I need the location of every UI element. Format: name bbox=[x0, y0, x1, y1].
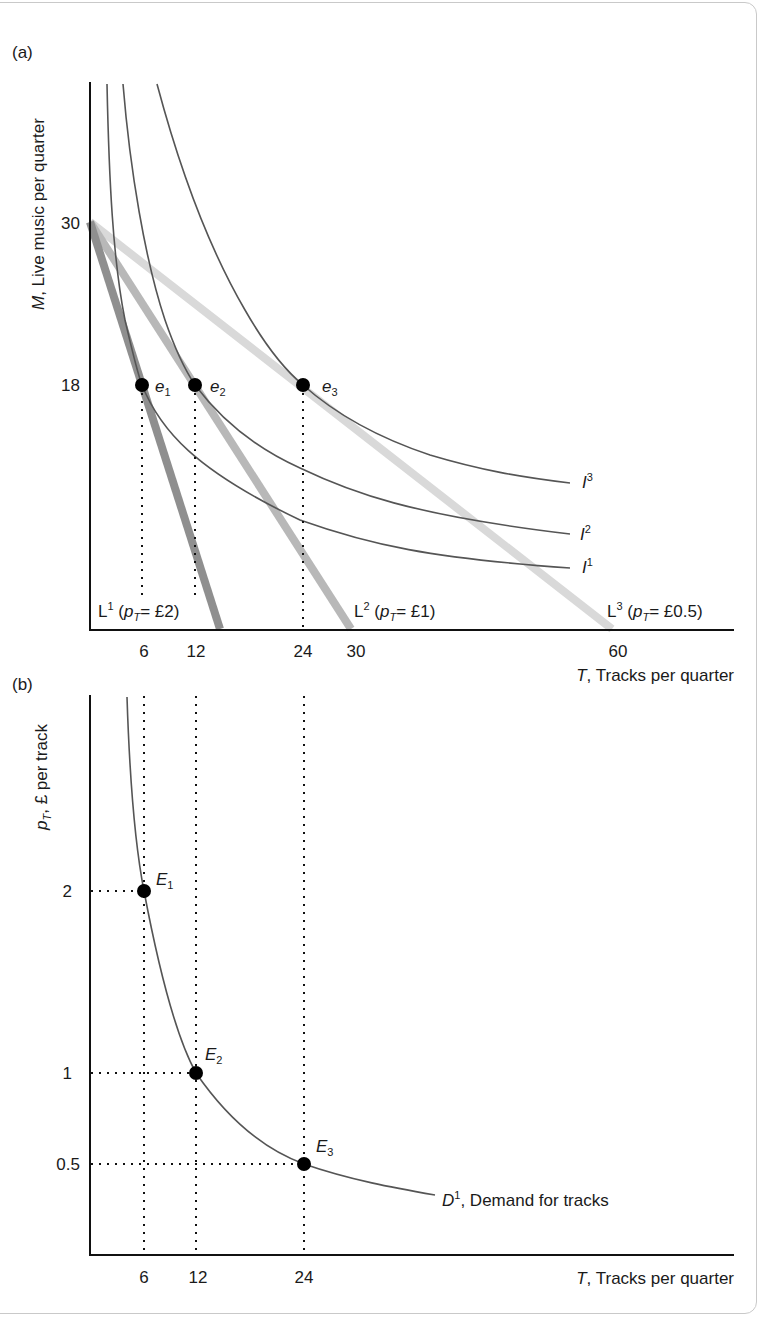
label-i1: I1 bbox=[582, 556, 593, 577]
panel-b-x-axis-label: T, Tracks per quarter bbox=[576, 1269, 734, 1288]
panel-a-label: (a) bbox=[12, 43, 33, 62]
panel-a: (a) M, Live music per quarter e1 e2 e3 I… bbox=[12, 43, 734, 685]
x-tick-30: 30 bbox=[347, 642, 366, 661]
label-e1: e1 bbox=[155, 377, 171, 398]
point-e1 bbox=[135, 378, 149, 392]
y-tick-1: 1 bbox=[63, 1064, 72, 1083]
y-tick-30: 30 bbox=[61, 214, 80, 233]
label-e2: e2 bbox=[210, 377, 226, 398]
x-tick-b-6: 6 bbox=[139, 1268, 148, 1287]
x-tick-b-12: 12 bbox=[189, 1268, 208, 1287]
figure: (a) M, Live music per quarter e1 e2 e3 I… bbox=[0, 0, 761, 1318]
panel-b-label: (b) bbox=[12, 675, 33, 694]
y-tick-18: 18 bbox=[61, 376, 80, 395]
label-l3: L3 (pT= £0.5) bbox=[607, 600, 703, 623]
y-tick-0-5: 0.5 bbox=[56, 1155, 80, 1174]
y-tick-2: 2 bbox=[63, 882, 72, 901]
label-E3: E3 bbox=[316, 1137, 333, 1158]
panel-b-y-axis-label: pT, £ per track bbox=[32, 724, 53, 831]
label-e3: e3 bbox=[322, 377, 338, 398]
label-l2: L2 (pT= £1) bbox=[354, 600, 435, 623]
point-e3 bbox=[296, 378, 310, 392]
label-i2: I2 bbox=[580, 523, 591, 544]
point-E2 bbox=[189, 1066, 203, 1080]
label-E2: E2 bbox=[205, 1045, 222, 1066]
label-demand: D1, Demand for tracks bbox=[442, 1189, 609, 1210]
point-e2 bbox=[188, 378, 202, 392]
point-E1 bbox=[137, 884, 151, 898]
panel-a-y-axis-label: M, Live music per quarter bbox=[29, 118, 48, 310]
x-tick-24: 24 bbox=[294, 642, 313, 661]
point-E3 bbox=[297, 1157, 311, 1171]
panel-b: (b) pT, £ per track E1 E2 E3 D1, Demand … bbox=[12, 675, 734, 1288]
x-tick-12: 12 bbox=[187, 642, 206, 661]
x-tick-60: 60 bbox=[609, 642, 628, 661]
panel-a-x-axis-label: T, Tracks per quarter bbox=[576, 666, 734, 685]
x-tick-b-24: 24 bbox=[295, 1268, 314, 1287]
budget-line-l3 bbox=[90, 222, 612, 629]
x-tick-6: 6 bbox=[139, 642, 148, 661]
demand-curve bbox=[127, 697, 435, 1195]
budget-line-l2 bbox=[90, 222, 351, 629]
label-l1: L1 (pT= £2) bbox=[98, 600, 179, 623]
label-E1: E1 bbox=[156, 870, 173, 891]
indifference-curve-i2 bbox=[123, 84, 570, 534]
label-i3: I3 bbox=[582, 471, 593, 492]
